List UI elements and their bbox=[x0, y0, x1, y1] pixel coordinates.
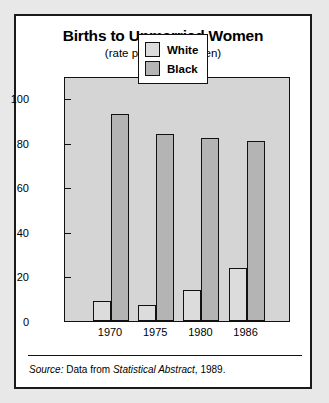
source-work: Statistical Abstract bbox=[113, 364, 195, 375]
bar-black-1986 bbox=[247, 141, 265, 321]
source-middle: Data from bbox=[63, 364, 112, 375]
bar-group bbox=[183, 78, 219, 321]
y-tick-label: 40 bbox=[0, 227, 29, 239]
legend-swatch-white bbox=[145, 42, 160, 57]
legend-swatch-black bbox=[145, 61, 160, 76]
bar-black-1975 bbox=[156, 134, 174, 321]
source-suffix: , 1989. bbox=[195, 364, 226, 375]
bar-white-1986 bbox=[229, 268, 247, 321]
chart-legend: WhiteBlack bbox=[138, 34, 208, 84]
y-tick-mark bbox=[64, 99, 71, 100]
bar-group bbox=[229, 78, 265, 321]
y-tick-label: 100 bbox=[0, 93, 29, 105]
x-tick-label: 1986 bbox=[216, 326, 276, 338]
y-tick-mark bbox=[64, 277, 71, 278]
legend-item-black: Black bbox=[145, 59, 198, 78]
legend-item-white: White bbox=[145, 40, 198, 59]
bar-black-1980 bbox=[201, 138, 219, 321]
y-tick-label: 60 bbox=[0, 182, 29, 194]
bar-white-1975 bbox=[138, 305, 156, 321]
y-tick-mark bbox=[64, 144, 71, 145]
legend-label: Black bbox=[167, 63, 198, 75]
source-note: Source: Data from Statistical Abstract, … bbox=[29, 364, 225, 375]
bar-group bbox=[93, 78, 129, 321]
y-tick-mark bbox=[64, 233, 71, 234]
bar-black-1970 bbox=[111, 114, 129, 321]
plot-area bbox=[64, 77, 290, 322]
source-prefix: Source: bbox=[29, 364, 63, 375]
bar-group bbox=[138, 78, 174, 321]
bar-white-1970 bbox=[93, 301, 111, 321]
bar-groups bbox=[65, 78, 289, 321]
chart-figure: Births to Unmarried Women (rate per 1000… bbox=[0, 0, 329, 403]
y-tick-label: 0 bbox=[0, 316, 29, 328]
chart-card: Births to Unmarried Women (rate per 1000… bbox=[14, 14, 312, 389]
y-tick-mark bbox=[64, 188, 71, 189]
legend-label: White bbox=[167, 44, 198, 56]
bar-white-1980 bbox=[183, 290, 201, 321]
source-divider bbox=[28, 355, 302, 356]
y-tick-label: 80 bbox=[0, 138, 29, 150]
y-tick-label: 20 bbox=[0, 271, 29, 283]
